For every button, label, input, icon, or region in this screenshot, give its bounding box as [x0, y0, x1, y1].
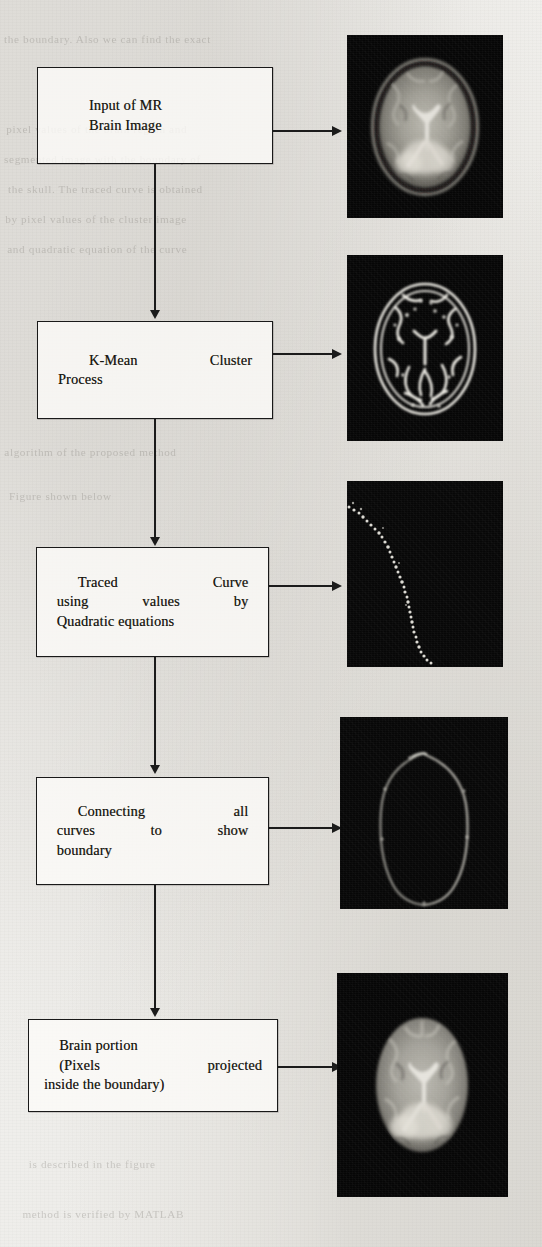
word: K-Mean — [89, 351, 138, 371]
extracted-brain-image — [337, 973, 508, 1197]
word: to — [151, 821, 162, 841]
ghost-text-line: by pixel values of the cluster image — [5, 210, 187, 229]
connector-step4-step5 — [154, 885, 156, 1010]
step-text-line: Quadratic equations — [57, 612, 249, 632]
ghost-text-line: algorithm of the proposed method — [4, 443, 176, 462]
connector-to-image-4 — [269, 827, 338, 829]
word: projected — [208, 1056, 263, 1076]
arrowhead-step4-step5 — [150, 1008, 160, 1017]
arrowhead-step2-step3 — [150, 537, 160, 546]
step-box-input-mr-brain-image[interactable]: Input of MR Brain Image — [37, 67, 273, 164]
connector-to-image-5 — [278, 1066, 338, 1068]
ghost-text-line: and quadratic equation of the curve — [7, 240, 187, 259]
step-box-text: K-Mean Cluster Process — [58, 351, 252, 390]
word: curves — [57, 821, 95, 841]
ghost-text-line: the skull. The traced curve is obtained — [8, 180, 203, 199]
word: all — [234, 802, 249, 822]
extracted-brain-image-tile — [337, 973, 508, 1197]
connector-step1-step2 — [154, 164, 156, 312]
word: (Pixels — [59, 1056, 100, 1076]
step-box-brain-portion[interactable]: Brain portion (Pixels projected inside t… — [28, 1019, 278, 1112]
arrowhead-to-image-3 — [332, 581, 342, 591]
arrowhead-to-image-1 — [332, 126, 342, 136]
step-text-line: (Pixels projected — [44, 1056, 262, 1076]
connector-to-image-2 — [273, 353, 338, 355]
ghost-text-line: is described in the figure — [29, 1155, 156, 1174]
step-box-text: Brain portion (Pixels projected inside t… — [44, 1036, 262, 1095]
step-text-line: inside the boundary) — [44, 1075, 262, 1095]
step-box-connecting-curves[interactable]: Connecting all curves to show boundary — [36, 777, 269, 885]
step-text-line: Brain portion — [44, 1036, 262, 1056]
word: by — [234, 592, 249, 612]
word: values — [142, 592, 179, 612]
connector-to-image-1 — [273, 130, 338, 132]
connector-step3-step4 — [154, 657, 156, 767]
step-text-line: curves to show — [57, 821, 249, 841]
step-box-text: Traced Curve using values by Quadratic e… — [57, 573, 249, 632]
arrowhead-step1-step2 — [150, 310, 160, 319]
word: Cluster — [210, 351, 252, 371]
step-text-line: Input of MR — [58, 96, 252, 116]
word: Connecting — [78, 802, 145, 822]
connector-step2-step3 — [154, 419, 156, 539]
step-text-line: Traced Curve — [57, 573, 249, 593]
k-mean-cluster-result — [347, 255, 503, 441]
step-text-line: Process — [58, 370, 252, 390]
mr-brain-image — [347, 35, 503, 218]
step-text-line: using values by — [57, 592, 249, 612]
word: using — [57, 592, 89, 612]
ghost-text-line: method is verified by MATLAB — [22, 1205, 184, 1224]
traced-curve-image — [347, 481, 503, 667]
boundary-image — [340, 717, 508, 909]
mr-brain-image-tile — [347, 35, 503, 218]
step-text-line: K-Mean Cluster — [58, 351, 252, 371]
step-box-text: Connecting all curves to show boundary — [57, 802, 249, 861]
traced-curve-image-tile — [347, 481, 503, 667]
ghost-text-line: Figure shown below — [9, 487, 112, 506]
step-box-traced-curve[interactable]: Traced Curve using values by Quadratic e… — [36, 547, 269, 657]
k-mean-cluster-result-tile — [347, 255, 503, 441]
boundary-image-tile — [340, 717, 508, 909]
ghost-text-line: the boundary. Also we can find the exact — [4, 30, 211, 49]
word: Curve — [213, 573, 249, 593]
arrowhead-to-image-2 — [332, 349, 342, 359]
connector-to-image-3 — [269, 585, 338, 587]
step-text-line: Connecting all — [57, 802, 249, 822]
word: Traced — [78, 573, 118, 593]
step-box-text: Input of MR Brain Image — [58, 96, 252, 135]
step-box-k-mean-cluster-process[interactable]: K-Mean Cluster Process — [37, 321, 273, 419]
word: show — [218, 821, 249, 841]
step-text-line: boundary — [57, 841, 249, 861]
arrowhead-step3-step4 — [150, 765, 160, 774]
step-text-line: Brain Image — [58, 116, 252, 136]
